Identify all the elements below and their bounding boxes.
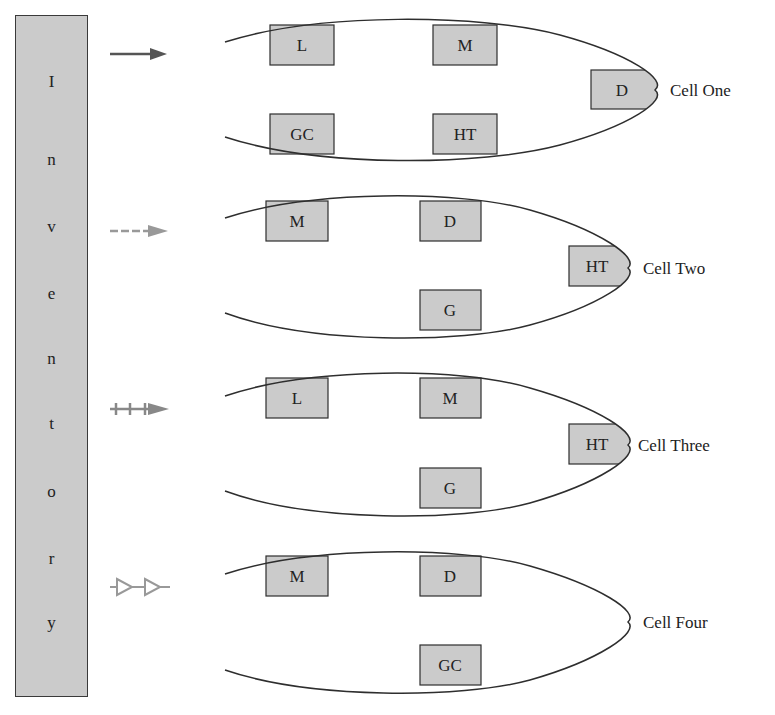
machine-HT: HT bbox=[569, 246, 649, 286]
machine-D: D bbox=[420, 201, 481, 241]
svg-text:HT: HT bbox=[586, 435, 609, 454]
machine-GC: GC bbox=[270, 114, 334, 154]
cell-four: M D GC Cell Four bbox=[225, 552, 708, 693]
svg-text:D: D bbox=[444, 212, 456, 231]
machine-L: L bbox=[266, 378, 328, 418]
cell-label: Cell Four bbox=[643, 613, 708, 632]
svg-text:HT: HT bbox=[454, 125, 477, 144]
svg-text:D: D bbox=[616, 81, 628, 100]
cell-three: L M HT G Cell Three bbox=[225, 373, 710, 516]
machine-D: D bbox=[591, 70, 671, 109]
svg-text:L: L bbox=[297, 36, 307, 55]
machine-HT: HT bbox=[569, 424, 649, 464]
machine-HT: HT bbox=[433, 114, 497, 154]
flow-arrow-triangles bbox=[110, 579, 170, 595]
cell-two: M D HT G Cell Two bbox=[225, 196, 705, 338]
svg-text:M: M bbox=[289, 567, 304, 586]
cell-one: L M D GC HT Cell One bbox=[225, 19, 731, 160]
flow-arrow-plus bbox=[110, 403, 169, 415]
svg-text:D: D bbox=[444, 567, 456, 586]
cell-label: Cell One bbox=[670, 81, 731, 100]
svg-text:M: M bbox=[289, 212, 304, 231]
svg-text:G: G bbox=[444, 301, 456, 320]
svg-text:HT: HT bbox=[586, 257, 609, 276]
machine-M: M bbox=[433, 25, 497, 65]
machine-L: L bbox=[270, 25, 334, 65]
machine-G: G bbox=[420, 290, 481, 330]
machine-D: D bbox=[420, 556, 481, 596]
machine-M: M bbox=[420, 378, 481, 418]
cell-label: Cell Two bbox=[643, 259, 705, 278]
svg-text:GC: GC bbox=[438, 656, 462, 675]
machine-M: M bbox=[266, 201, 328, 241]
cell-label: Cell Three bbox=[638, 436, 710, 455]
flow-arrow-dashed bbox=[110, 225, 168, 237]
svg-text:GC: GC bbox=[290, 125, 314, 144]
svg-text:M: M bbox=[457, 36, 472, 55]
flow-arrow-solid bbox=[110, 48, 167, 60]
svg-text:L: L bbox=[292, 389, 302, 408]
svg-text:M: M bbox=[442, 389, 457, 408]
svg-text:G: G bbox=[444, 479, 456, 498]
machine-GC: GC bbox=[420, 645, 481, 685]
machine-G: G bbox=[420, 468, 481, 508]
